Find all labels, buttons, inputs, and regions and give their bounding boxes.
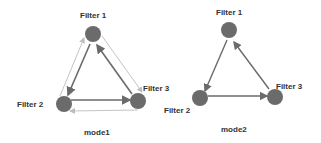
edge-f3-f1 [234,42,269,89]
mode2-diagram [192,22,283,106]
node-filter-3 [130,93,146,109]
label-filter-2: Filter 2 [17,100,43,109]
label-filter-3: Filter 3 [276,82,302,91]
mode1-diagram [56,26,146,112]
node-filter-2 [56,96,72,112]
label-filter-2: Filter 2 [164,106,190,115]
edge-f1-f2 [205,40,227,91]
label-filter-1: Filter 1 [216,8,242,17]
label-filter-3: Filter 3 [143,84,169,93]
caption-mode2: mode2 [221,125,247,134]
edge-f3-f2-thin [70,110,138,111]
edge-f3-f1 [97,45,132,94]
node-filter-1 [221,22,237,38]
node-filter-1 [85,26,101,42]
diagram-canvas [0,0,321,143]
label-filter-1: Filter 1 [80,11,106,20]
node-filter-3 [267,89,283,105]
node-filter-2 [192,90,208,106]
caption-mode1: mode1 [84,128,110,137]
edge-f1-f3-thin [102,36,142,92]
